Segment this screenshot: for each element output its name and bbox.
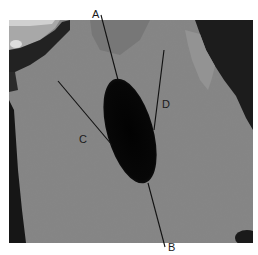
- label-b: B: [168, 241, 175, 253]
- scan-figure: A B C D: [0, 0, 258, 255]
- label-a: A: [92, 8, 100, 20]
- bright-spot: [10, 40, 22, 48]
- label-c: C: [79, 133, 87, 145]
- label-d: D: [162, 98, 170, 110]
- scan-image: [9, 20, 258, 246]
